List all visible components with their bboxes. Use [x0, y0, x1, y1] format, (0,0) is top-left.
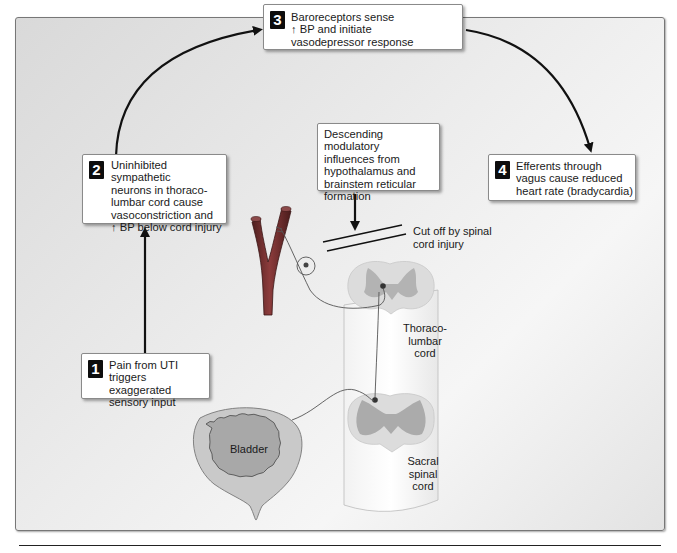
step-2-box: 2 Uninhibited sympathetic neurons in tho… — [82, 154, 227, 224]
sacral-spinal-cord-label: Sacral spinal cord — [393, 455, 453, 493]
thoracolumbar-cross-section — [348, 261, 434, 314]
cut-off-lines — [323, 225, 406, 251]
step-4-box: 4 Efferents through vagus cause reduced … — [488, 154, 636, 201]
cut-off-label: Cut off by spinal cord injury — [413, 225, 492, 250]
arrow-step2-to-step3 — [116, 30, 258, 156]
descending-influences-box: Descending modulatory influences from hy… — [317, 123, 440, 191]
step-1-text: Pain from UTI triggers exaggerated senso… — [109, 359, 209, 409]
arrow-step3-to-step4 — [466, 30, 590, 148]
bladder — [193, 408, 302, 520]
thoracolumbar-neuron — [380, 283, 386, 289]
step-4-text: Efferents through vagus cause reduced he… — [516, 160, 633, 197]
bottom-rule — [19, 545, 661, 546]
step-3-number-badge: 3 — [270, 11, 285, 29]
step-1-box: 1 Pain from UTI triggers exaggerated sen… — [81, 353, 210, 399]
bladder-label: Bladder — [219, 443, 279, 456]
step-2-number-badge: 2 — [89, 161, 104, 179]
descending-influences-text: Descending modulatory influences from hy… — [324, 128, 439, 202]
step-3-box: 3 Baroreceptors sense ↑ BP and initiate … — [263, 4, 463, 50]
step-3-text: Baroreceptors sense ↑ BP and initiate va… — [291, 11, 414, 48]
step-2-text: Uninhibited sympathetic neurons in thora… — [111, 159, 226, 233]
sympathetic-ganglion — [297, 257, 315, 275]
step-4-number-badge: 4 — [495, 161, 510, 179]
sacral-neuron — [372, 397, 378, 403]
step-1-number-badge: 1 — [88, 360, 103, 378]
blood-vessel — [251, 207, 291, 316]
thoracolumbar-cord-label: Thoraco- lumbar cord — [395, 322, 455, 360]
diagram-artwork — [0, 0, 677, 553]
